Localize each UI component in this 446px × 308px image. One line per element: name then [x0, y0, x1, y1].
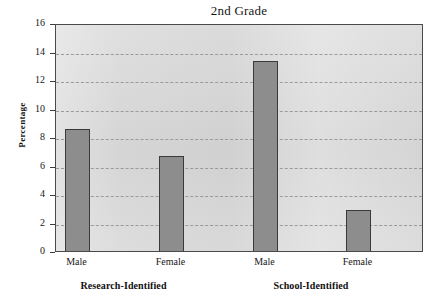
- bar-school-male: [253, 61, 278, 252]
- y-tick-label-0: 0: [19, 245, 45, 256]
- y-tick-mark: [50, 224, 55, 225]
- y-tick-label-8: 8: [19, 131, 45, 142]
- y-tick-mark: [50, 252, 55, 253]
- gridline: [56, 111, 422, 112]
- x-tick-label-research-female: Female: [126, 256, 216, 267]
- gridline: [56, 82, 422, 83]
- group-label-research-identified: Research-Identified: [29, 280, 219, 291]
- y-tick-mark: [50, 81, 55, 82]
- bar-school-female: [346, 210, 371, 252]
- x-tick-label-school-female: Female: [313, 256, 403, 267]
- bar-chart-figure: 2nd Grade Percentage 1614121086420 MaleF…: [0, 0, 446, 308]
- gridline: [56, 54, 422, 55]
- y-tick-label-14: 14: [19, 46, 45, 57]
- chart-title: 2nd Grade: [55, 3, 423, 19]
- y-tick-mark: [50, 195, 55, 196]
- y-tick-mark: [50, 110, 55, 111]
- bar-research-male: [65, 129, 90, 252]
- y-axis-title: Percentage: [17, 85, 27, 165]
- gridline: [56, 196, 422, 197]
- x-tick-label-research-male: Male: [32, 256, 122, 267]
- y-tick-mark: [50, 24, 55, 25]
- y-tick-label-4: 4: [19, 188, 45, 199]
- y-tick-mark: [50, 53, 55, 54]
- gridline: [56, 139, 422, 140]
- y-tick-label-2: 2: [19, 217, 45, 228]
- y-tick-label-10: 10: [19, 103, 45, 114]
- x-tick-label-school-male: Male: [220, 256, 310, 267]
- y-tick-mark: [50, 167, 55, 168]
- y-tick-mark: [50, 138, 55, 139]
- y-tick-label-12: 12: [19, 74, 45, 85]
- y-tick-label-6: 6: [19, 160, 45, 171]
- group-label-school-identified: School-Identified: [216, 280, 406, 291]
- y-tick-label-16: 16: [19, 17, 45, 28]
- plot-area: [55, 24, 423, 252]
- gridline: [56, 168, 422, 169]
- bar-research-female: [159, 156, 184, 252]
